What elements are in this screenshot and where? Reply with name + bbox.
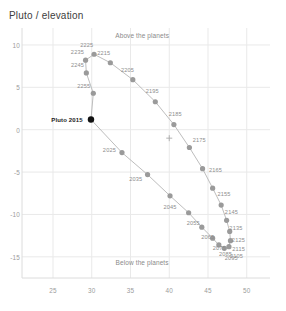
point-label-2165: 2165: [209, 167, 222, 173]
point-label-2065: 2065: [201, 234, 214, 240]
point-label-2235: 2235: [71, 49, 84, 55]
point-label-2255: 2255: [77, 83, 90, 89]
point-label-2145: 2145: [225, 209, 238, 215]
point-label-2045: 2045: [163, 204, 176, 210]
y-tick-5: 5: [6, 84, 20, 91]
point-label-2155: 2155: [217, 191, 230, 197]
pluto-elevation-chart: Pluto / elevation Pluto 2015202520352045…: [0, 0, 286, 311]
plot-area: Pluto 2015202520352045205520652075208520…: [22, 28, 270, 278]
annotation-above: Above the planets: [115, 31, 169, 38]
y-tick-neg15: -15: [6, 253, 20, 260]
y-tick-0: 0: [6, 126, 20, 133]
y-tick-neg5: -5: [6, 169, 20, 176]
point-label-2075: 2075: [213, 245, 226, 251]
sun-cross-icon: [166, 135, 172, 141]
point-label-2115: 2115: [232, 246, 245, 252]
x-tick-35: 35: [127, 287, 135, 294]
point-label-2245: 2245: [71, 62, 84, 68]
point-label-2135: 2135: [229, 225, 242, 231]
point-label-2025: 2025: [103, 147, 116, 153]
point-label-2225: 2225: [80, 42, 93, 48]
point-label-2205: 2205: [121, 67, 134, 73]
x-tick-50: 50: [243, 287, 251, 294]
point-label-2015: Pluto 2015: [51, 117, 83, 123]
point-label-2215: 2215: [97, 50, 110, 56]
point-label-2055: 2055: [187, 220, 200, 226]
y-tick-10: 10: [6, 41, 20, 48]
point-label-2105: 2105: [230, 253, 243, 259]
point-label-2185: 2185: [169, 111, 182, 117]
x-tick-45: 45: [204, 287, 212, 294]
x-tick-30: 30: [88, 287, 96, 294]
point-label-2175: 2175: [193, 137, 206, 143]
page-title: Pluto / elevation: [9, 10, 84, 21]
x-tick-25: 25: [49, 287, 57, 294]
point-label-2035: 2035: [129, 176, 142, 182]
point-label-2195: 2195: [146, 88, 159, 94]
annotation-below: Below the planets: [116, 258, 169, 265]
y-tick-neg10: -10: [6, 211, 20, 218]
point-label-2125: 2125: [232, 237, 245, 243]
x-tick-40: 40: [165, 287, 173, 294]
